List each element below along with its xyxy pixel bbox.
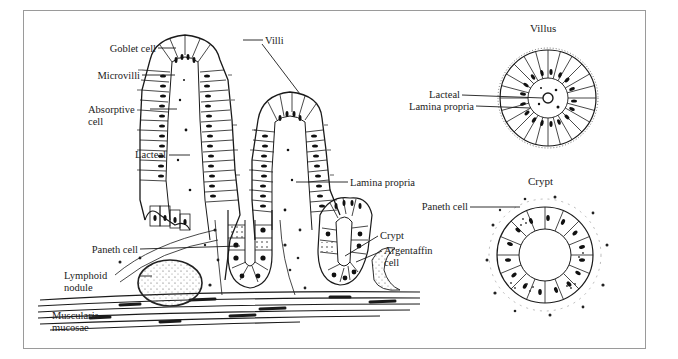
label-muscularis-line-2: mucosae <box>52 322 99 334</box>
crypt-cross-section <box>486 196 609 317</box>
label-paneth-cell: Paneth cell <box>60 244 138 256</box>
label-lymphoid-line-1: Lymphoid <box>64 270 107 282</box>
label-lymphoid-line-2: nodule <box>64 282 107 294</box>
label-lamina-propria: Lamina propria <box>350 177 415 189</box>
label-absorptive-line-1: Absorptive <box>88 104 135 116</box>
label-argentaffin-cell: Argentaffin cell <box>384 245 433 269</box>
lymphoid-nodule <box>138 260 202 306</box>
label-muscularis-mucosae: Muscularis mucosae <box>52 310 99 334</box>
label-absorptive-cell: Absorptive cell <box>88 104 135 128</box>
label-lymphoid-nodule: Lymphoid nodule <box>64 270 107 294</box>
villus-cross-section <box>498 48 598 148</box>
label-crypt: Crypt <box>380 230 404 242</box>
label-crypt-paneth-cell: Paneth cell <box>400 201 468 213</box>
label-villus-lacteal: Lacteal <box>400 89 460 101</box>
label-absorptive-line-2: cell <box>88 116 135 128</box>
villus-panel-title: Villus <box>530 22 556 34</box>
crypt-left <box>228 210 272 288</box>
label-goblet-cell: Goblet cell <box>88 43 156 55</box>
label-villus-lamina-propria: Lamina propria <box>390 101 474 113</box>
villus-leader-lines <box>462 95 543 108</box>
label-microvilli: Microvilli <box>80 70 140 82</box>
label-villi: Villi <box>265 35 284 47</box>
label-lacteal: Lacteal <box>110 149 166 161</box>
label-muscularis-line-1: Muscularis <box>52 310 99 322</box>
crypt-panel-title: Crypt <box>528 175 553 187</box>
label-argentaffin-line-1: Argentaffin <box>384 245 433 257</box>
label-argentaffin-line-2: cell <box>384 257 433 269</box>
